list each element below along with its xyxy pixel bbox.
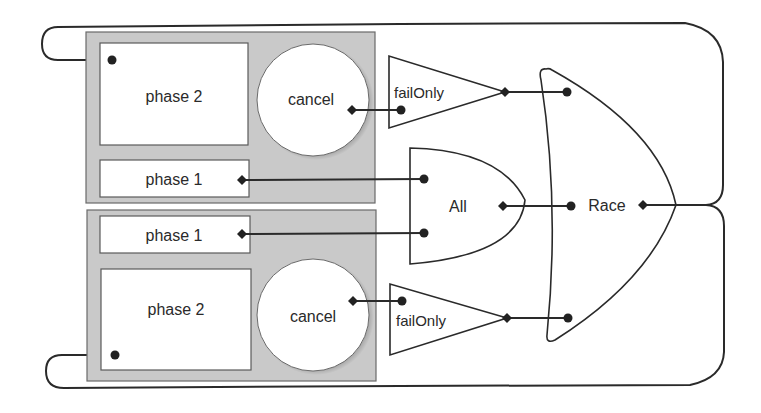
top-failonly-output-diamond[interactable] — [500, 87, 510, 97]
bottom-phase-group: phase 1 phase 2 cancel — [87, 210, 376, 381]
bottom-phase1-label: phase 1 — [146, 227, 203, 244]
top-failonly-label: failOnly — [394, 84, 445, 101]
top-phase-group: phase 2 phase 1 cancel — [86, 32, 375, 203]
bottom-phase2-box[interactable] — [101, 269, 251, 370]
race-gate-label: Race — [588, 197, 625, 214]
race-input-dot-2[interactable] — [567, 202, 576, 211]
top-phase1-label: phase 1 — [146, 171, 203, 188]
all-input-dot-2[interactable] — [420, 229, 429, 238]
bottom-phase2-input-dot[interactable] — [111, 351, 120, 360]
top-cancel-label: cancel — [288, 91, 334, 108]
all-input-dot-1[interactable] — [420, 175, 429, 184]
top-failonly-input-dot[interactable] — [397, 106, 406, 115]
race-input-dot-3[interactable] — [564, 314, 573, 323]
bottom-failonly-gate[interactable]: failOnly — [390, 284, 507, 355]
bottom-failonly-label: failOnly — [396, 312, 447, 329]
top-failonly-gate[interactable]: failOnly — [389, 56, 505, 128]
bottom-failonly-output-diamond[interactable] — [502, 313, 512, 323]
bottom-failonly-input-dot[interactable] — [398, 297, 407, 306]
diagram-canvas: phase 2 phase 1 cancel phase 1 phase 2 c… — [0, 0, 761, 413]
race-input-dot-1[interactable] — [563, 88, 572, 97]
bottom-phase2-label: phase 2 — [148, 301, 205, 318]
bottom-cancel-label: cancel — [290, 308, 336, 325]
top-phase2-label: phase 2 — [146, 88, 203, 105]
all-gate-label: All — [449, 198, 467, 215]
top-phase2-input-dot[interactable] — [108, 56, 117, 65]
